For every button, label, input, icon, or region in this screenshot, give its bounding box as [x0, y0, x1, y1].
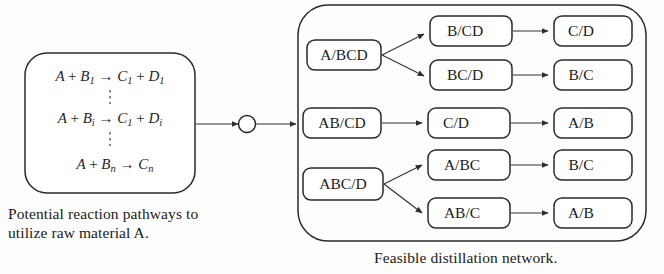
node-bc-d[interactable]: BC/D — [430, 60, 512, 90]
node-a-bcd[interactable]: A/BCD — [307, 40, 381, 70]
edge-abcd-to-bcd2 — [382, 55, 424, 76]
right-caption: Feasible distillation network. — [374, 248, 654, 267]
node-a-bc[interactable]: A/BC — [428, 150, 510, 180]
edge-abcd4-to-abc2 — [384, 184, 422, 213]
node-b-cd[interactable]: B/CD — [430, 16, 512, 46]
process-node-circle — [239, 116, 256, 133]
node-c-d-mid[interactable]: C/D — [428, 108, 510, 138]
node-label: A/BCD — [320, 46, 367, 63]
network-column-1: A/BCD AB/CD ABC/D — [303, 40, 383, 200]
figure-root: A + B1 → C1 + D1 A + Bi → C1 + Di A + Bn… — [0, 0, 664, 274]
node-label: A/B — [568, 114, 594, 131]
edge-abcd4-to-abc — [384, 165, 422, 184]
node-a-b-mid[interactable]: A/B — [554, 108, 632, 138]
node-a-b-bottom[interactable]: A/B — [554, 198, 632, 228]
node-label: A/BC — [444, 156, 480, 173]
potential-reaction-pathways-box: A + B1 → C1 + D1 A + Bi → C1 + Di A + Bn… — [25, 53, 195, 193]
node-label: B/C — [569, 156, 594, 173]
node-label: B/C — [569, 66, 594, 83]
node-label: AB/CD — [318, 114, 365, 131]
node-c-d-top[interactable]: C/D — [554, 16, 632, 46]
left-caption: Potential reaction pathways to utilize r… — [8, 204, 258, 243]
node-ab-c[interactable]: AB/C — [428, 198, 510, 228]
node-label: A/B — [568, 204, 594, 221]
node-label: B/CD — [447, 22, 483, 39]
node-label: BC/D — [447, 66, 483, 83]
network-column-2: B/CD BC/D C/D A/BC AB/C — [428, 16, 512, 228]
node-abc-d[interactable]: ABC/D — [303, 168, 383, 200]
node-b-c-upper[interactable]: B/C — [554, 60, 632, 90]
node-label: C/D — [568, 22, 594, 39]
node-b-c-lower[interactable]: B/C — [554, 150, 632, 180]
network-column-3: C/D B/C A/B B/C A/B — [554, 16, 632, 228]
process-connector — [196, 116, 296, 133]
equation-1: A + B1 → C1 + D1 — [54, 68, 164, 85]
equation-2: A + Bi → C1 + Di — [57, 110, 163, 127]
node-ab-cd[interactable]: AB/CD — [303, 108, 381, 138]
node-label: AB/C — [444, 204, 480, 221]
node-label: ABC/D — [319, 175, 366, 192]
feasible-distillation-network: A/BCD AB/CD ABC/D B/CD — [298, 5, 646, 241]
node-label: C/D — [443, 114, 469, 131]
edge-abcd-to-bcd — [382, 34, 424, 55]
